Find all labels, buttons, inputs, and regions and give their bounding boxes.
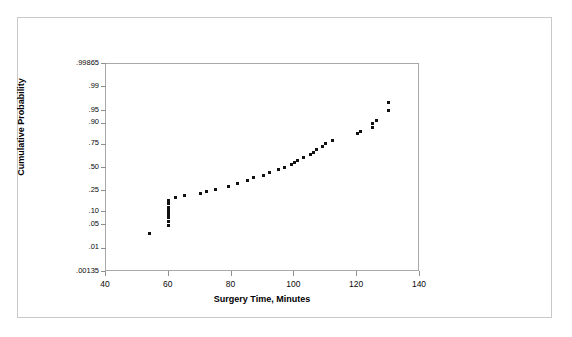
x-axis-tick-label: 140 — [404, 279, 434, 289]
data-point — [324, 142, 327, 145]
data-point — [246, 179, 249, 182]
data-point — [359, 130, 362, 133]
y-axis-tick-label-text: .75 — [59, 139, 99, 147]
x-axis-tick — [356, 271, 357, 276]
y-axis-tick-label-text: .00135 — [59, 267, 99, 275]
y-axis-tick-label: .50 — [54, 163, 99, 171]
y-axis-tick — [101, 211, 106, 212]
y-axis-tick — [101, 144, 106, 145]
y-axis-tick-label-text: .95 — [59, 106, 99, 114]
data-point — [387, 109, 390, 112]
data-point — [387, 101, 390, 104]
data-point — [296, 159, 299, 162]
y-axis-tick-label: .75 — [54, 139, 99, 147]
x-axis-tick — [293, 271, 294, 276]
data-point — [167, 211, 170, 214]
y-axis-tick-label-text: .25 — [59, 186, 99, 194]
y-axis-tick-label: .95 — [54, 106, 99, 114]
data-point — [252, 176, 255, 179]
y-axis-tick-label: .99865 — [54, 59, 99, 67]
data-point — [268, 171, 271, 174]
x-axis-tick — [168, 271, 169, 276]
x-axis-tick-label: 40 — [90, 279, 120, 289]
data-point — [167, 202, 170, 205]
data-point — [277, 168, 280, 171]
data-point — [205, 190, 208, 193]
data-point — [312, 151, 315, 154]
data-point — [371, 122, 374, 125]
y-axis-tick — [101, 63, 106, 64]
y-axis-tick-label-text: .99865 — [59, 59, 99, 67]
x-axis-tick — [419, 271, 420, 276]
x-axis-tick-label: 120 — [341, 279, 371, 289]
y-axis-tick-label-text: .99 — [59, 82, 99, 90]
y-axis-tick — [101, 167, 106, 168]
data-point — [167, 206, 170, 209]
y-axis-tick-label-text: .50 — [59, 163, 99, 171]
data-point — [167, 220, 170, 223]
data-point — [167, 216, 170, 219]
y-axis-tick — [101, 110, 106, 111]
y-axis-tick-label-text: .05 — [59, 220, 99, 228]
data-point — [283, 166, 286, 169]
y-axis-tick-label-text: .10 — [59, 207, 99, 215]
y-axis-tick-label: .10 — [54, 207, 99, 215]
data-point — [214, 188, 217, 191]
data-point — [167, 224, 170, 227]
data-point — [302, 156, 305, 159]
y-axis-tick-label: .25 — [54, 186, 99, 194]
x-axis-tick-label: 60 — [153, 279, 183, 289]
y-axis-tick-label: .01 — [54, 243, 99, 251]
data-point — [174, 196, 177, 199]
data-point — [262, 174, 265, 177]
x-axis-tick — [105, 271, 106, 276]
data-point — [315, 148, 318, 151]
plot-data-area — [106, 64, 418, 270]
y-axis-title: Cumulative Probability — [16, 62, 26, 192]
chart-page: .00135.01.05.10.25.50.75.90.95.99.99865 … — [0, 0, 572, 337]
data-point — [167, 199, 170, 202]
y-axis-tick-label: .90 — [54, 118, 99, 126]
y-axis-tick — [101, 86, 106, 87]
y-axis-tick-label: .99 — [54, 82, 99, 90]
data-point — [331, 139, 334, 142]
y-axis-tick-label-text: .01 — [59, 243, 99, 251]
data-point — [375, 119, 378, 122]
data-point — [167, 208, 170, 211]
x-axis-tick — [231, 271, 232, 276]
data-point — [148, 232, 151, 235]
data-point — [321, 145, 324, 148]
y-axis-tick-label: .05 — [54, 220, 99, 228]
y-axis-tick-label-text: .90 — [59, 118, 99, 126]
plot-frame — [105, 63, 419, 271]
data-point — [236, 182, 239, 185]
x-axis-tick-label: 100 — [278, 279, 308, 289]
y-axis-tick — [101, 248, 106, 249]
y-axis-tick — [101, 123, 106, 124]
data-point — [199, 192, 202, 195]
y-axis-tick — [101, 190, 106, 191]
y-axis-tick-label: .00135 — [54, 267, 99, 275]
data-point — [371, 126, 374, 129]
x-axis-title: Surgery Time, Minutes — [105, 294, 419, 304]
x-axis-tick-label: 80 — [216, 279, 246, 289]
y-axis-tick — [101, 224, 106, 225]
data-point — [227, 185, 230, 188]
data-point — [183, 194, 186, 197]
